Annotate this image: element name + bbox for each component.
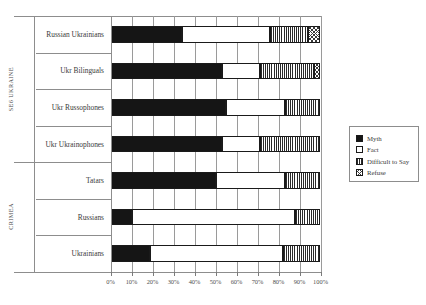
- x-tick: [300, 272, 301, 276]
- bar-segment: [150, 245, 282, 262]
- bar-segment: [216, 172, 285, 189]
- bar-row: [111, 99, 321, 116]
- bar-segment: [295, 209, 320, 226]
- bar-row: [111, 26, 321, 43]
- legend-item-label: Fact: [367, 146, 379, 153]
- bar-segment: [222, 63, 260, 80]
- bar-segment: [111, 63, 222, 80]
- x-tick-label: 50%: [210, 278, 222, 285]
- legend-item[interactable]: Difficult to Say: [356, 156, 409, 166]
- legend-item-label: Myth: [367, 135, 382, 142]
- x-tick: [153, 272, 154, 276]
- bar-segment: [111, 209, 132, 226]
- x-tick-label: 80%: [273, 278, 285, 285]
- x-tick-label: 20%: [147, 278, 159, 285]
- vertical-lines-icon: [356, 158, 363, 165]
- x-tick-label: 40%: [189, 278, 201, 285]
- legend-item[interactable]: Myth: [356, 133, 382, 143]
- category-separator: [36, 89, 111, 90]
- stacked-bar-chart: Russian UkrainiansUkr BilingualsUkr Russ…: [0, 0, 426, 305]
- chart-legend: MythFactDifficult to SayRefuse: [349, 126, 419, 182]
- x-tick: [132, 272, 133, 276]
- x-tick: [237, 272, 238, 276]
- bar-segment: [283, 245, 321, 262]
- bar-row: [111, 63, 321, 80]
- legend-item[interactable]: Fact: [356, 145, 379, 155]
- bar-segment: [111, 136, 222, 153]
- category-column-spine: [111, 16, 112, 272]
- bar-row: [111, 136, 321, 153]
- solid-black-icon: [356, 135, 363, 142]
- bar-segment: [314, 63, 320, 80]
- bar-segment: [222, 136, 260, 153]
- category-separator: [14, 272, 111, 273]
- x-tick: [195, 272, 196, 276]
- gridline-x-100: [321, 16, 322, 272]
- category-label: Russian Ukrainians: [34, 30, 108, 39]
- bar-segment: [260, 63, 315, 80]
- bar-segment: [285, 99, 321, 116]
- x-tick-label: 60%: [231, 278, 243, 285]
- x-tick: [258, 272, 259, 276]
- category-label-column: Russian UkrainiansUkr BilingualsUkr Russ…: [34, 0, 110, 305]
- category-separator: [36, 199, 111, 200]
- x-tick: [174, 272, 175, 276]
- x-tick: [321, 272, 322, 276]
- group-column-spine: [34, 16, 35, 272]
- category-separator: [36, 126, 111, 127]
- legend-item[interactable]: Refuse: [356, 168, 386, 178]
- x-tick-label: 0%: [106, 278, 115, 285]
- bar-segment: [111, 172, 216, 189]
- x-tick: [111, 272, 112, 276]
- x-tick-label: 100%: [313, 278, 328, 285]
- category-separator: [14, 16, 111, 17]
- category-label: Ukr Bilinguals: [34, 66, 108, 75]
- x-tick-label: 10%: [126, 278, 138, 285]
- bar-row: [111, 209, 321, 226]
- x-tick: [279, 272, 280, 276]
- x-tick-label: 70%: [252, 278, 264, 285]
- white-icon: [356, 146, 363, 153]
- bar-segment: [260, 136, 321, 153]
- bar-segment: [111, 99, 227, 116]
- bar-segment: [111, 26, 182, 43]
- x-tick-label: 30%: [168, 278, 180, 285]
- bar-segment: [270, 26, 308, 43]
- category-label: Ukr Ukrainophones: [34, 140, 108, 149]
- category-label: Ukr Russophones: [34, 103, 108, 112]
- category-separator: [14, 162, 111, 163]
- legend-item-label: Refuse: [367, 169, 386, 176]
- bar-segment: [285, 172, 321, 189]
- bar-segment: [111, 245, 151, 262]
- bar-segment: [308, 26, 321, 43]
- category-label: Tatars: [34, 176, 108, 185]
- bar-row: [111, 245, 321, 262]
- x-tick: [216, 272, 217, 276]
- group-label: CRIMEA: [0, 162, 20, 272]
- category-separator: [36, 235, 111, 236]
- bar-segment: [182, 26, 270, 43]
- bar-row: [111, 172, 321, 189]
- category-separator: [36, 53, 111, 54]
- category-label: Ukrainians: [34, 249, 108, 258]
- bar-segment: [132, 209, 296, 226]
- x-tick-label: 90%: [294, 278, 306, 285]
- cross-hatch-icon: [356, 169, 363, 176]
- category-label: Russians: [34, 213, 108, 222]
- group-label: SE6 UKRAINE: [0, 16, 20, 162]
- legend-item-label: Difficult to Say: [367, 158, 409, 165]
- bar-segment: [226, 99, 285, 116]
